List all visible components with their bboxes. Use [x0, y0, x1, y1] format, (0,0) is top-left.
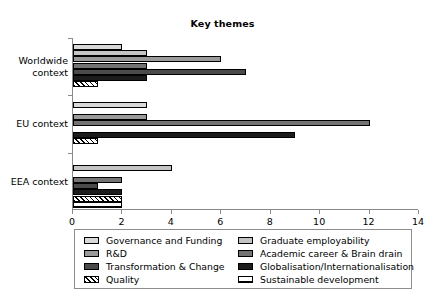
legend-item-label: Graduate employability	[260, 235, 369, 246]
bar	[73, 69, 246, 75]
legend-column-right: Graduate employabilityAcademic career & …	[238, 234, 414, 286]
x-axis-tick-label: 10	[304, 216, 334, 227]
x-axis-tick	[369, 210, 370, 214]
x-axis-tick-label: 4	[156, 216, 186, 227]
legend-item-label: Academic career & Brain drain	[260, 248, 402, 259]
y-axis-tick	[68, 95, 72, 96]
bar	[73, 56, 221, 62]
bar	[73, 63, 147, 69]
bar	[73, 196, 122, 202]
legend-item[interactable]: Globalisation/Internationalisation	[238, 260, 414, 273]
chart-title: Key themes	[0, 18, 445, 29]
legend-item[interactable]: Governance and Funding	[84, 234, 225, 247]
y-axis-category-label: EU context	[0, 118, 68, 130]
bar	[73, 165, 172, 171]
x-axis-tick	[220, 210, 221, 214]
y-axis-category-label: EEA context	[0, 176, 68, 188]
legend-swatch-icon	[84, 237, 99, 244]
bar	[73, 102, 147, 108]
x-axis-tick	[121, 210, 122, 214]
legend-item-label: Quality	[106, 274, 139, 285]
y-axis-tick	[68, 38, 72, 39]
x-axis-tick-label: 2	[106, 216, 136, 227]
x-axis-tick-label: 6	[205, 216, 235, 227]
legend-item[interactable]: Quality	[84, 273, 225, 286]
legend-swatch-icon	[238, 237, 253, 244]
bar	[73, 138, 98, 144]
legend-item[interactable]: R&D	[84, 247, 225, 260]
bar	[73, 189, 122, 195]
legend-item-label: Governance and Funding	[106, 235, 222, 246]
plot-area: 02468101214	[72, 38, 418, 210]
legend-item-label: Sustainable development	[260, 274, 379, 285]
x-axis-tick-label: 12	[354, 216, 384, 227]
y-axis-category-label-group: Worldwidecontext	[0, 55, 68, 78]
y-axis-category-label: context	[0, 67, 68, 79]
legend-swatch-icon	[84, 276, 99, 283]
bar	[73, 50, 147, 56]
bar	[73, 81, 98, 87]
bar	[73, 177, 122, 183]
legend-swatch-icon	[84, 250, 99, 257]
bar	[73, 75, 147, 81]
x-axis-tick-label: 8	[255, 216, 285, 227]
bar	[73, 183, 98, 189]
x-axis-tick	[319, 210, 320, 214]
bar	[73, 44, 122, 50]
x-axis-tick	[270, 210, 271, 214]
x-axis-tick-label: 0	[57, 216, 87, 227]
chart-legend: Governance and FundingR&DTransformation …	[74, 229, 412, 289]
bar	[73, 202, 122, 208]
legend-item[interactable]: Graduate employability	[238, 234, 414, 247]
legend-item[interactable]: Academic career & Brain drain	[238, 247, 414, 260]
y-axis-tick	[68, 153, 72, 154]
legend-item[interactable]: Transformation & Change	[84, 260, 225, 273]
bar-chart: Key themes WorldwidecontextEU contextEEA…	[0, 0, 445, 308]
x-axis-tick	[171, 210, 172, 214]
legend-item-label: Transformation & Change	[106, 261, 225, 272]
bar	[73, 120, 370, 126]
bar	[73, 132, 295, 138]
x-axis-tick	[418, 210, 419, 214]
legend-swatch-icon	[238, 263, 253, 270]
legend-column-left: Governance and FundingR&DTransformation …	[84, 234, 225, 286]
legend-swatch-icon	[238, 250, 253, 257]
x-axis-line	[72, 209, 418, 210]
bar	[73, 114, 147, 120]
y-axis-category-label-group: EU context	[0, 118, 68, 130]
legend-item[interactable]: Sustainable development	[238, 273, 414, 286]
legend-item-label: Globalisation/Internationalisation	[260, 261, 414, 272]
legend-item-label: R&D	[106, 248, 127, 259]
legend-swatch-icon	[238, 276, 253, 283]
y-axis-category-label: Worldwide	[0, 55, 68, 67]
legend-swatch-icon	[84, 263, 99, 270]
x-axis-tick-label: 14	[403, 216, 433, 227]
x-axis-tick	[72, 210, 73, 214]
y-axis-category-label-group: EEA context	[0, 176, 68, 188]
